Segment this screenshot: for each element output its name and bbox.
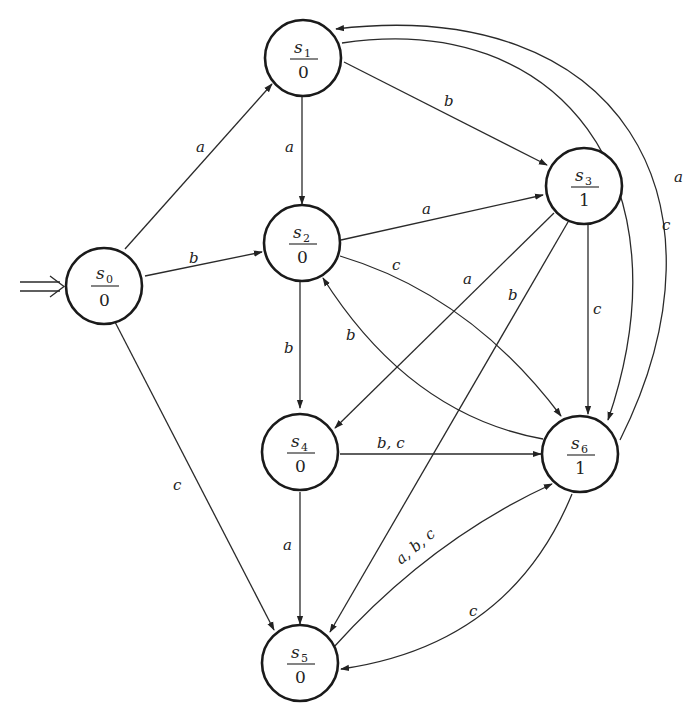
label-s2-s3: a (422, 200, 431, 218)
label-s5-s6: a, b, c (392, 524, 439, 568)
state-output: 1 (575, 458, 586, 478)
label-s0-s5: c (173, 476, 182, 494)
label-s6-s5: c (469, 602, 478, 620)
state-s0: s 0 0 (66, 248, 142, 324)
state-output: 1 (579, 190, 590, 210)
state-name: s (571, 433, 580, 453)
state-subscript: 4 (301, 441, 308, 454)
edge-s0-s1 (125, 84, 272, 249)
state-diagram: a b c a b c a b c a b c a b, c a, b, c a… (0, 0, 686, 709)
state-output: 0 (295, 456, 306, 476)
edge-s2-s3 (341, 195, 543, 240)
state-s6: s 6 1 (542, 416, 618, 492)
label-s2-s4: b (284, 339, 294, 357)
label-s0-s1: a (196, 138, 205, 156)
edges (115, 25, 666, 669)
edge-s5-s6 (333, 484, 552, 648)
label-s3-s6: c (593, 300, 602, 318)
state-s4: s 4 0 (262, 414, 338, 490)
state-subscript: 1 (304, 47, 311, 60)
edge-s2-s6 (340, 256, 561, 416)
state-name: s (291, 642, 300, 662)
label-s0-s2: b (189, 249, 199, 267)
edge-s0-s5 (115, 322, 274, 630)
label-s4-s5: a (283, 536, 292, 554)
state-name: s (294, 37, 303, 57)
state-name: s (293, 222, 302, 242)
state-s3: s 3 1 (546, 148, 622, 224)
label-s4-s6: b, c (377, 434, 405, 452)
state-subscript: 3 (585, 175, 592, 188)
label-s6-s1: a (674, 168, 683, 186)
state-subscript: 6 (581, 443, 588, 456)
state-s1: s 1 0 (265, 20, 341, 96)
state-subscript: 5 (301, 652, 308, 665)
state-subscript: 0 (106, 273, 113, 286)
start-arrow-icon (20, 276, 64, 297)
state-output: 0 (297, 247, 308, 267)
state-s5: s 5 0 (262, 625, 338, 701)
state-output: 0 (295, 667, 306, 687)
label-s3-s5: b (508, 286, 518, 304)
label-s2-s6: c (392, 256, 401, 274)
state-s2: s 2 0 (264, 205, 340, 281)
label-s1-s6: c (662, 216, 671, 234)
edge-s3-s4 (335, 213, 554, 428)
edge-s1-s3 (344, 62, 547, 165)
edge-s6-s5 (341, 494, 572, 669)
state-output: 0 (298, 62, 309, 82)
state-output: 0 (99, 290, 110, 310)
state-name: s (575, 165, 584, 185)
label-s3-s4: a (463, 270, 472, 288)
label-s1-s3: b (444, 92, 454, 110)
label-s1-s2: a (285, 138, 294, 156)
state-subscript: 2 (303, 232, 310, 245)
label-s6-s2: b (346, 326, 356, 344)
state-name: s (96, 263, 105, 283)
edge-s0-s2 (145, 252, 262, 276)
state-name: s (291, 431, 300, 451)
edge-s3-s5 (330, 222, 568, 632)
